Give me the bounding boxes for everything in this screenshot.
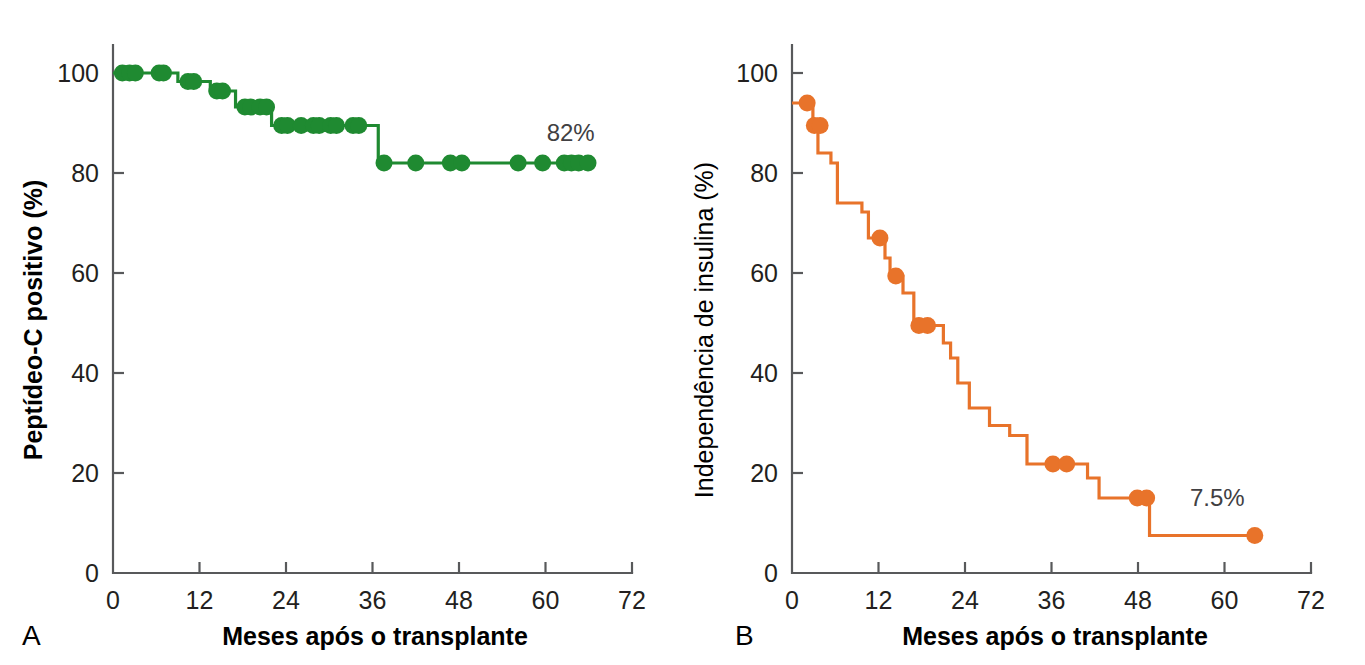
y-tick-label: 0	[764, 559, 778, 587]
panel-a-x-ticks: 0122436486072	[106, 562, 646, 614]
panel-a-y-axis-title: Peptídeo-C positivo (%)	[19, 180, 47, 461]
panel-b-x-axis-title: Meses após o transplante	[902, 622, 1208, 650]
y-tick-label: 60	[71, 259, 99, 287]
x-tick-label: 48	[445, 586, 473, 614]
x-tick-label: 12	[186, 586, 214, 614]
censored-point-marker	[1246, 527, 1263, 544]
censored-point-marker	[887, 268, 904, 285]
y-tick-label: 80	[71, 159, 99, 187]
panel-b-letter: B	[735, 620, 754, 651]
censored-point-marker	[534, 155, 551, 172]
y-tick-label: 100	[57, 59, 99, 87]
x-tick-label: 60	[1211, 586, 1239, 614]
x-tick-label: 0	[785, 586, 799, 614]
panel-b-km-curve	[792, 103, 1255, 536]
censored-point-marker	[871, 230, 888, 247]
figure-container: 020406080100 0122436486072 82% Peptídeo-…	[0, 0, 1365, 665]
x-tick-label: 36	[359, 586, 387, 614]
chart-panel-a: 020406080100 0122436486072 82% Peptídeo-…	[0, 0, 682, 665]
censored-point-marker	[812, 117, 829, 134]
censored-point-marker	[127, 65, 144, 82]
panel-b-series	[792, 95, 1263, 545]
panel-a-letter: A	[22, 620, 41, 651]
censored-point-marker	[799, 95, 816, 112]
y-tick-label: 100	[736, 59, 778, 87]
x-tick-label: 24	[272, 586, 300, 614]
panel-b-y-axis-title: Independência de insulina (%)	[690, 162, 718, 498]
panel-a-plot: 020406080100 0122436486072 82% Peptídeo-…	[0, 0, 682, 665]
censored-point-marker	[510, 155, 527, 172]
y-tick-label: 40	[71, 359, 99, 387]
censored-point-marker	[185, 73, 202, 90]
censored-point-marker	[580, 155, 597, 172]
y-tick-label: 60	[750, 259, 778, 287]
y-tick-label: 40	[750, 359, 778, 387]
censored-point-marker	[376, 155, 393, 172]
x-tick-label: 24	[951, 586, 979, 614]
censored-point-marker	[407, 155, 424, 172]
y-tick-label: 20	[71, 459, 99, 487]
x-tick-label: 72	[618, 586, 646, 614]
panel-a-censored-markers	[114, 65, 597, 172]
panel-b-plot: 020406080100 0122436486072 7.5% Independ…	[683, 0, 1365, 665]
panel-b-x-ticks: 0122436486072	[785, 562, 1325, 614]
y-tick-label: 20	[750, 459, 778, 487]
censored-point-marker	[1138, 490, 1155, 507]
censored-point-marker	[453, 155, 470, 172]
x-tick-label: 72	[1297, 586, 1325, 614]
x-tick-label: 48	[1124, 586, 1152, 614]
censored-point-marker	[919, 317, 936, 334]
censored-point-marker	[155, 65, 172, 82]
x-tick-label: 36	[1038, 586, 1066, 614]
panel-b-censored-markers	[799, 95, 1264, 545]
censored-point-marker	[258, 99, 275, 116]
censored-point-marker	[350, 117, 367, 134]
censored-point-marker	[328, 117, 345, 134]
x-tick-label: 0	[106, 586, 120, 614]
censored-point-marker	[1058, 456, 1075, 473]
y-tick-label: 80	[750, 159, 778, 187]
chart-panel-b: 020406080100 0122436486072 7.5% Independ…	[683, 0, 1365, 665]
panel-a-x-axis-title: Meses após o transplante	[222, 622, 528, 650]
panel-b-endpoint-label: 7.5%	[1190, 484, 1245, 511]
x-tick-label: 60	[532, 586, 560, 614]
censored-point-marker	[214, 83, 231, 100]
y-tick-label: 0	[85, 559, 99, 587]
x-tick-label: 12	[865, 586, 893, 614]
panel-a-endpoint-label: 82%	[547, 119, 595, 146]
panel-a-series	[113, 65, 597, 172]
